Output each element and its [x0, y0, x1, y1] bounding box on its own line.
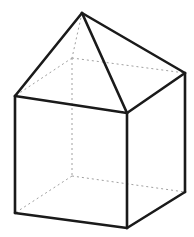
wireframe-solid-diagram: [0, 0, 194, 237]
faces-layer: [15, 13, 185, 228]
figure-canvas: [0, 0, 194, 237]
cube-front-left-face: [15, 96, 127, 228]
